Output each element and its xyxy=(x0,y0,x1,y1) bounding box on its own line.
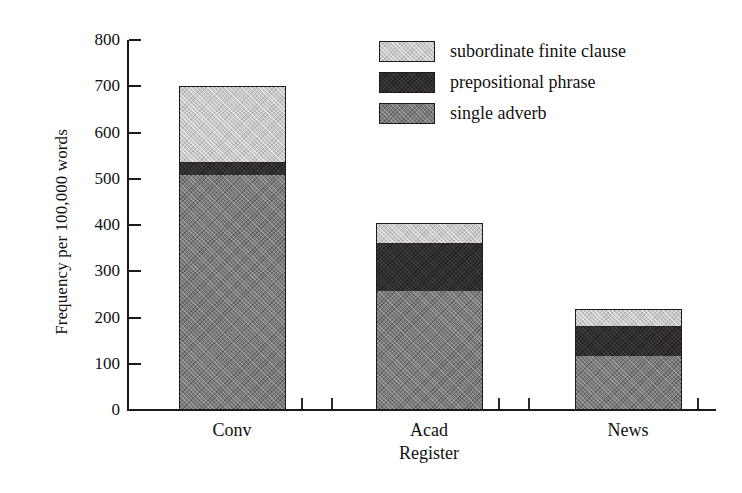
bar-segment-single-adverb xyxy=(576,356,681,409)
bar-segment-subordinate-finite-clause xyxy=(180,86,285,161)
chart-legend: subordinate finite clause prepositional … xyxy=(379,36,626,129)
bar-segment-single-adverb xyxy=(377,291,482,409)
legend-item: prepositional phrase xyxy=(379,67,626,98)
bar-segment-prepositional-phrase xyxy=(377,243,482,292)
y-axis-tick-label: 200 xyxy=(66,309,120,326)
y-axis-tick-label: 500 xyxy=(66,170,120,187)
bar-acad xyxy=(376,223,483,410)
medium-gray-swatch xyxy=(379,103,435,124)
y-axis-tick-label: 300 xyxy=(66,262,120,279)
legend-item-label: single adverb xyxy=(450,103,546,124)
bar-segment-subordinate-finite-clause xyxy=(576,309,681,326)
y-axis-tick-label: 800 xyxy=(66,31,120,48)
legend-item-label: prepositional phrase xyxy=(450,72,595,93)
x-axis-title: Register xyxy=(349,443,509,464)
dark-gray-swatch xyxy=(379,72,435,93)
y-axis-tick-label: 600 xyxy=(66,124,120,141)
x-axis-label-acad: Acad xyxy=(349,420,509,441)
bar-segment-subordinate-finite-clause xyxy=(377,223,482,243)
y-axis-tick-label: 0 xyxy=(66,401,120,418)
x-axis-label-conv: Conv xyxy=(152,420,312,441)
bar-segment-prepositional-phrase xyxy=(576,326,681,356)
y-axis-tick-label: 100 xyxy=(66,355,120,372)
legend-item: single adverb xyxy=(379,98,626,129)
x-axis-label-news: News xyxy=(548,420,708,441)
legend-item: subordinate finite clause xyxy=(379,36,626,67)
stacked-bar-chart: Frequency per 100,000 words 010020030040… xyxy=(0,0,742,493)
bar-news xyxy=(575,309,682,410)
bar-conv xyxy=(179,86,286,410)
y-axis-tick-label: 400 xyxy=(66,216,120,233)
bar-segment-prepositional-phrase xyxy=(180,162,285,176)
light-gray-swatch xyxy=(379,41,435,62)
legend-item-label: subordinate finite clause xyxy=(450,41,626,62)
bar-segment-single-adverb xyxy=(180,175,285,409)
y-axis-tick-label: 700 xyxy=(66,77,120,94)
